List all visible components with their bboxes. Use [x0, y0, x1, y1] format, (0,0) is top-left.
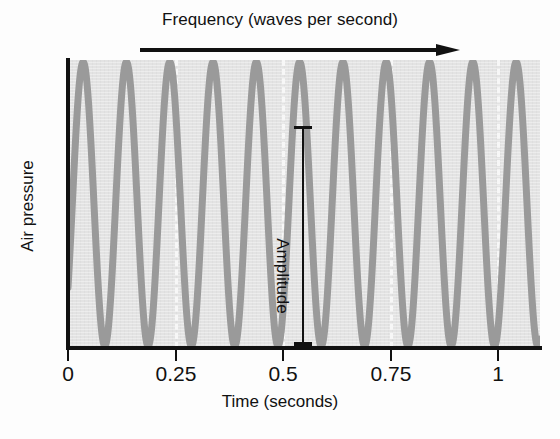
amplitude-label: Amplitude	[272, 196, 292, 356]
y-axis-title: Air pressure	[18, 116, 38, 296]
frequency-annotation-label: Frequency (waves per second)	[0, 10, 560, 30]
amplitude-cap-bottom	[294, 342, 312, 348]
x-tick-0	[67, 350, 69, 361]
x-tick-label-0.25: 0.25	[156, 362, 197, 386]
amplitude-line	[302, 128, 304, 350]
x-tick-label-0.5: 0.5	[268, 362, 297, 386]
amplitude-measure-bar	[294, 126, 312, 350]
x-tick-label-1: 1	[492, 362, 504, 386]
x-tick-label-0.75: 0.75	[371, 362, 412, 386]
x-tick-1	[497, 350, 499, 361]
x-tick-label-0: 0	[62, 362, 74, 386]
y-axis-line	[66, 58, 70, 350]
sound-wave-figure: Frequency (waves per second) 0 0.25 0.5 …	[0, 0, 560, 439]
x-axis-title: Time (seconds)	[0, 392, 560, 412]
x-tick-0.75	[390, 350, 392, 361]
right-arrow-icon	[140, 44, 460, 56]
x-tick-0.25	[175, 350, 177, 361]
